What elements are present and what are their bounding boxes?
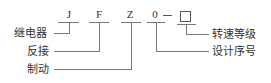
label-relay: 继电器: [14, 27, 47, 40]
label-brake: 制动: [27, 63, 49, 76]
label-reverse: 反接: [27, 45, 49, 58]
connector-0-horizontal: [156, 51, 209, 52]
connector-box-horizontal: [186, 34, 209, 35]
code-digit-0: 0: [145, 8, 165, 20]
connector-z-horizontal: [54, 69, 132, 70]
code-letter-f: F: [89, 8, 109, 20]
placeholder-box: [180, 11, 191, 22]
code-dash: [163, 15, 172, 16]
connector-0-vertical: [156, 22, 157, 52]
connector-j-horizontal: [54, 33, 70, 34]
connector-z-vertical: [131, 22, 132, 70]
connector-f-horizontal: [54, 51, 100, 52]
code-letter-z: Z: [120, 8, 140, 20]
label-design-number: 设计序号: [212, 45, 256, 58]
label-speed-grade: 转速等级: [212, 28, 256, 41]
code-letter-j: J: [59, 8, 79, 20]
connector-f-vertical: [99, 22, 100, 52]
